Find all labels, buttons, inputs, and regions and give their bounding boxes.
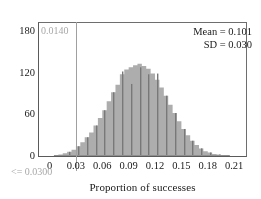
x-tick-label: 0.21 [225,160,243,171]
statistics-annotation: Mean = 0.101 SD = 0.030 [193,25,252,51]
sd-label: SD = 0.030 [193,38,252,51]
x-tick-label: 0.12 [146,160,164,171]
x-tick-label: 0.09 [119,160,137,171]
threshold-label: <= 0.0300 [11,166,52,177]
x-tick-label: 0.06 [93,160,111,171]
x-tick-label: 0.03 [67,160,85,171]
x-axis-title: Proportion of successes [38,181,247,193]
tail-probability-label: 0.0140 [41,25,69,36]
x-tick-label: 0.15 [172,160,190,171]
x-tick-label: 0.18 [199,160,217,171]
mean-label: Mean = 0.101 [193,25,252,38]
histogram-figure: 060120180 00.030.060.090.120.150.180.21 … [0,0,261,199]
